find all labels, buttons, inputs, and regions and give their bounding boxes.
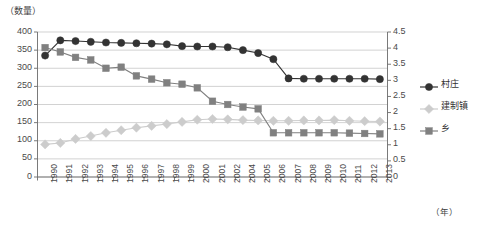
y-axis-tick-label: 400 bbox=[17, 26, 32, 36]
legend-marker-3 bbox=[420, 122, 438, 132]
x-axis-tick-label: 2007 bbox=[293, 164, 303, 183]
x-axis-tick-label: 2005 bbox=[262, 164, 272, 183]
x-axis-tick-label: 1993 bbox=[95, 164, 105, 183]
chart-container: （数量） （年） 050100150200250300350400 00.511… bbox=[0, 0, 478, 233]
y-axis-tick-label: 350 bbox=[17, 44, 32, 54]
secondary-y-axis-tick-label: 0.5 bbox=[393, 154, 406, 164]
y-axis-tick-label: 0 bbox=[27, 171, 32, 181]
x-axis-tick-label: 1998 bbox=[171, 164, 181, 183]
legend-marker-2 bbox=[420, 100, 438, 110]
secondary-y-axis-tick-label: 4 bbox=[393, 42, 398, 52]
x-axis-tick-label: 1996 bbox=[140, 164, 150, 183]
x-axis-tick-label: 1990 bbox=[49, 164, 59, 183]
legend-label-3: 乡 bbox=[441, 121, 450, 134]
x-axis-tick-label: 2004 bbox=[247, 164, 257, 183]
x-axis-tick-label: 2010 bbox=[338, 164, 348, 183]
secondary-y-axis-tick-label: 1.5 bbox=[393, 122, 406, 132]
x-axis-tick-label: 2008 bbox=[308, 164, 318, 183]
x-axis-tick-label: 2002 bbox=[232, 164, 242, 183]
x-axis-tick-label: 2006 bbox=[277, 164, 287, 183]
secondary-y-axis-tick-label: 1 bbox=[393, 138, 398, 148]
y-axis-tick-label: 50 bbox=[22, 152, 32, 162]
secondary-y-axis-tick-label: 2 bbox=[393, 106, 398, 116]
x-axis-tick-label: 2013 bbox=[384, 164, 394, 183]
y-axis-tick-label: 100 bbox=[17, 134, 32, 144]
x-axis-tick-label: 2012 bbox=[369, 164, 379, 183]
axis-lines bbox=[34, 32, 391, 181]
x-axis-tick-label: 1999 bbox=[186, 164, 196, 183]
legend-label-1: 村庄 bbox=[441, 77, 459, 90]
y-axis-tick-label: 150 bbox=[17, 116, 32, 126]
secondary-y-axis-tick-label: 2.5 bbox=[393, 90, 406, 100]
y-axis-tick-label: 250 bbox=[17, 80, 32, 90]
secondary-y-axis-tick-label: 3 bbox=[393, 74, 398, 84]
x-axis-tick-label: 1991 bbox=[64, 164, 74, 183]
plot-area bbox=[0, 0, 478, 233]
x-axis-tick-label: 2009 bbox=[323, 164, 333, 183]
x-axis-tick-label: 2000 bbox=[201, 164, 211, 183]
x-axis-tick-label: 1997 bbox=[156, 164, 166, 183]
legend-label-2: 建制镇 bbox=[441, 99, 468, 112]
y-axis-tick-label: 300 bbox=[17, 62, 32, 72]
secondary-y-axis-tick-label: 4.5 bbox=[393, 26, 406, 36]
secondary-y-axis-tick-label: 3.5 bbox=[393, 58, 406, 68]
x-axis-tick-label: 2001 bbox=[217, 164, 227, 183]
x-axis-tick-label: 1995 bbox=[125, 164, 135, 183]
x-axis-tick-label: 1992 bbox=[80, 164, 90, 183]
legend-marker-1 bbox=[420, 78, 438, 88]
x-axis-tick-label: 2011 bbox=[353, 165, 363, 183]
x-axis-tick-label: 1994 bbox=[110, 164, 120, 183]
y-axis-tick-label: 200 bbox=[17, 98, 32, 108]
